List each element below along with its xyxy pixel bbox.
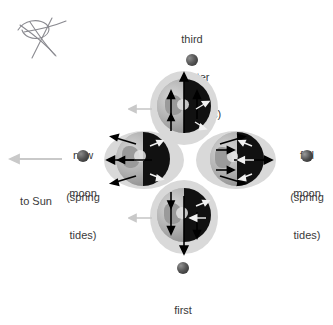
earth-cloud-top [177,99,189,110]
tides-diagram: third quarter (neap tides) [0,0,333,325]
sunlight-arrow-top [128,103,154,115]
moon-full-moon [301,150,313,162]
label-first-quarter-line1: first [137,304,229,317]
earth-first-quarter [148,182,220,254]
moon-first-quarter [177,262,189,274]
earth-night-side-right [237,132,264,186]
handwritten-scribble-annotation [8,8,78,63]
moon-third-quarter [186,54,198,66]
label-first-quarter: first quarter (neap tides) [137,279,229,325]
label-full-moon-line3: (spring [280,191,333,204]
earth-cloud-left [134,150,146,162]
sunlight-arrow-bottom [128,212,154,224]
moon-new-moon [77,150,89,162]
label-full-moon-tides: (spring tides) [280,166,333,266]
earth-cloud-right [227,151,238,162]
to-sun-arrow [8,152,64,166]
earth-night-side-bottom [184,188,211,242]
earth-globe-left [116,132,170,186]
label-to-sun-text: to Sun [6,195,66,208]
earth-night-side-left [143,132,170,186]
earth-cloud-bottom [176,207,188,219]
label-third-quarter-line1: third [146,33,238,46]
label-to-sun: to Sun [6,170,66,233]
earth-globe-right [210,132,264,186]
label-full-moon-line4: tides) [280,229,333,242]
earth-globe-bottom [157,188,211,242]
